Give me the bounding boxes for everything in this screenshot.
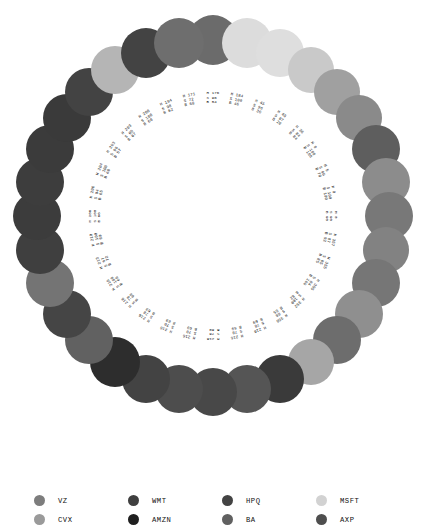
data-point-label: H 357 S 87 B 92 [321, 231, 337, 246]
legend-swatch-icon [316, 495, 327, 506]
data-point-label: H 216 S 70 B 69 [207, 327, 220, 341]
data-point-label: H 36 S 84 B 84 [288, 124, 305, 141]
radial-color-chart: H 176 S 96 B 54H 184 S 100 B 46H 45 S 96… [0, 0, 426, 526]
data-point-label: H 216 S 78 B 69 [120, 290, 139, 309]
data-point-label: H 350 S 80 B 55 [269, 305, 287, 324]
data-point-label: H 200 S 100 B 60 [138, 109, 156, 128]
data-point-label: H 184 S 100 B 46 [228, 92, 243, 108]
legend-swatch-icon [128, 514, 139, 525]
data-point-circle [154, 18, 204, 68]
legend-item[interactable]: BA [222, 511, 316, 526]
chart-legend: VZWMTHPQMSFTCVXAMZNBAAXP [0, 492, 426, 526]
legend-swatch-icon [316, 514, 327, 525]
legend-item-label: BA [246, 516, 256, 524]
data-point-label: H 5 S 99 B 70 [314, 163, 331, 178]
data-point-label: H 216 S 70 B 69 [182, 324, 197, 340]
data-point-label: H 216 S 78 B 69 [250, 316, 267, 334]
legend-item-label: VZ [58, 497, 68, 505]
legend-swatch-icon [34, 514, 45, 525]
legend-item-label: MSFT [340, 497, 359, 505]
ring-plot-area: H 176 S 96 B 54H 184 S 100 B 46H 45 S 96… [0, 0, 426, 440]
legend-item[interactable]: AMZN [128, 511, 222, 526]
legend-item-label: WMT [152, 497, 166, 505]
data-point-label: H 216 S 78 B 69 [228, 324, 243, 340]
legend-swatch-icon [222, 514, 233, 525]
data-point-label: H 216 S 78 B 69 [138, 305, 156, 324]
legend-item[interactable]: WMT [128, 492, 222, 509]
data-point-label: H 0 S 100 B 100 [302, 141, 321, 159]
legend-item-label: AMZN [152, 516, 171, 524]
legend-swatch-icon [222, 495, 233, 506]
legend-swatch-icon [128, 495, 139, 506]
legend-item[interactable]: HPQ [222, 492, 316, 509]
data-point-label: H 213 S 67 B 72 [95, 253, 113, 270]
legend-row: CVXAMZNBAAXP [0, 511, 426, 526]
legend-item[interactable]: AXP [316, 511, 410, 526]
legend-item-label: HPQ [246, 497, 260, 505]
data-point-label: H 0 S 100 B 100 [321, 185, 337, 200]
data-point-label: H 206 S 94 B 65 [89, 185, 105, 200]
data-point-label: H 352 S 100 B 82 [287, 290, 306, 309]
legend-item-label: AXP [340, 516, 354, 524]
data-point-label: H 171 S 72 B 68 [182, 92, 197, 108]
data-point-label: H 355 S 84 B 100 [302, 272, 321, 290]
data-point-label: H 45 S 87 B 20 [270, 109, 286, 126]
legend-item[interactable]: VZ [34, 492, 128, 509]
data-point-label: H 204 S 100 B 60 [95, 162, 113, 179]
legend-item-label: CVX [58, 516, 72, 524]
data-point-label: H 210 S 100 B 60 [106, 272, 125, 290]
legend-left-pad [0, 492, 34, 509]
data-point-label: H 216 S 70 B 69 [159, 316, 176, 334]
data-point-label: H 203 S 65 B 67 [120, 123, 139, 142]
data-point-label: H 45 S 96 B 36 [251, 99, 266, 116]
data-point-label: H 206 S 100 B 66 [88, 210, 102, 223]
legend-left-pad [0, 511, 34, 526]
data-point-label: H 210 S 100 B 60 [89, 231, 105, 246]
legend-row: VZWMTHPQMSFT [0, 492, 426, 509]
legend-item[interactable]: MSFT [316, 492, 410, 509]
data-point-label: H 194 S 98 B 62 [159, 98, 176, 116]
data-point-label: H 0 S 90 B 90 [324, 211, 338, 221]
legend-item[interactable]: CVX [34, 511, 128, 526]
data-point-label: H 355 S 85 B 85 [313, 253, 331, 270]
data-point-label: H 176 S 96 B 54 [207, 91, 220, 105]
legend-swatch-icon [34, 495, 45, 506]
data-point-label: H 203 S 96 B 57 [106, 141, 125, 159]
